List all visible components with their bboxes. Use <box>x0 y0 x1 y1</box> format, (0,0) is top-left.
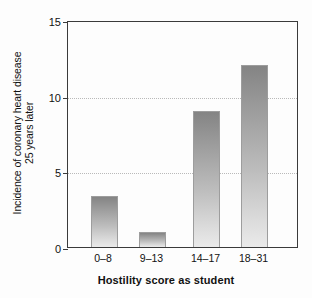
y-tick-mark <box>63 249 68 250</box>
x-tick-label: 9–13 <box>122 252 182 264</box>
y-axis-title: Incidence of coronary heart disease 25 y… <box>6 17 40 249</box>
y-tick-label: 15 <box>49 16 61 28</box>
y-axis-title-line1: Incidence of coronary heart disease <box>11 52 24 215</box>
bar <box>91 196 118 247</box>
plot-area: 051015 <box>67 21 298 248</box>
bar <box>193 111 220 247</box>
x-axis-title: Hostility score as student <box>0 274 312 286</box>
bar <box>241 65 268 247</box>
y-tick-mark <box>63 22 68 23</box>
chart-figure: Incidence of coronary heart disease 25 y… <box>0 0 312 298</box>
y-tick-label: 0 <box>55 243 61 255</box>
y-tick-label: 10 <box>49 92 61 104</box>
x-tick-label: 18–31 <box>224 252 284 264</box>
plot-inner: 051015 <box>68 22 297 247</box>
y-tick-mark <box>63 98 68 99</box>
bar <box>139 232 166 247</box>
y-axis-title-line2: 25 years later <box>23 102 36 164</box>
y-tick-mark <box>63 173 68 174</box>
y-tick-label: 5 <box>55 167 61 179</box>
